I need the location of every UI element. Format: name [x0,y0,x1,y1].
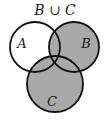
venn-diagram: B ∪ C A B C [0,0,108,122]
diagram-title: B ∪ C [33,2,76,18]
set-b-label: B [80,36,91,51]
set-c-label: C [47,94,57,109]
set-a-label: A [16,36,26,51]
